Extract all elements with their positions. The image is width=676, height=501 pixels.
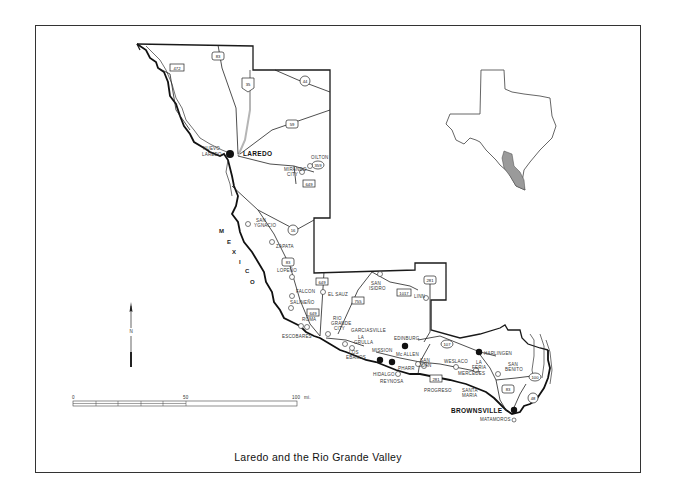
north-letter: N bbox=[130, 329, 133, 334]
highway-shield-44: 44 bbox=[300, 76, 310, 86]
highway-shield-649-b: 649 bbox=[307, 309, 319, 316]
svg-text:SALINEÑO: SALINEÑO bbox=[290, 299, 315, 305]
texas-inset-map bbox=[446, 70, 556, 190]
svg-text:O: O bbox=[250, 279, 255, 285]
highway-shield-649-north: 649 bbox=[303, 180, 315, 187]
svg-text:HARLINGEN: HARLINGEN bbox=[484, 351, 512, 356]
svg-text:35: 35 bbox=[246, 82, 251, 87]
svg-text:281: 281 bbox=[427, 278, 435, 283]
svg-text:1017: 1017 bbox=[399, 291, 409, 296]
svg-text:GRULLA: GRULLA bbox=[354, 340, 373, 345]
highway-shield-107: 107 bbox=[441, 340, 453, 348]
map-canvas: 83 35 472 44 59 359 649 16 83 649 649 75… bbox=[0, 0, 676, 501]
highway-shield-100: 100 bbox=[529, 373, 541, 381]
svg-text:PROGRESO: PROGRESO bbox=[424, 388, 452, 393]
svg-text:100: 100 bbox=[292, 395, 300, 400]
map-caption: Laredo and the Rio Grande Valley bbox=[0, 451, 676, 463]
svg-text:359: 359 bbox=[315, 163, 323, 168]
country-label-mexico: M E X I C O bbox=[219, 228, 255, 285]
svg-text:MARIA: MARIA bbox=[462, 393, 477, 398]
svg-text:HIDALGO: HIDALGO bbox=[373, 372, 395, 377]
svg-text:BENITO: BENITO bbox=[505, 367, 523, 372]
roads bbox=[158, 45, 532, 412]
svg-text:YGNACIO: YGNACIO bbox=[254, 223, 276, 228]
svg-text:EDINBURG: EDINBURG bbox=[394, 336, 420, 341]
scale-bar: 0 50 100 mi. bbox=[72, 395, 311, 406]
highway-shield-281-south: 281 bbox=[430, 375, 442, 382]
svg-text:LOPEÑO: LOPEÑO bbox=[277, 267, 297, 273]
svg-text:ROMA: ROMA bbox=[302, 317, 316, 322]
highway-shield-83-south: 83 bbox=[502, 385, 514, 393]
svg-text:REYNOSA: REYNOSA bbox=[380, 379, 403, 384]
interstate-shield-35: 35 bbox=[242, 78, 254, 92]
svg-text:281: 281 bbox=[433, 377, 441, 382]
svg-text:649: 649 bbox=[306, 182, 314, 187]
svg-text:JUAN: JUAN bbox=[419, 363, 432, 368]
svg-text:FERIA: FERIA bbox=[472, 365, 486, 370]
north-arrow: N bbox=[130, 302, 133, 367]
svg-text:FALCON: FALCON bbox=[296, 289, 315, 294]
svg-text:E: E bbox=[227, 239, 231, 245]
svg-text:48: 48 bbox=[531, 396, 536, 401]
svg-text:GARCIASVILLE: GARCIASVILLE bbox=[351, 328, 386, 333]
svg-text:ZAPATA: ZAPATA bbox=[276, 244, 294, 249]
highway-shield-649-a: 649 bbox=[316, 278, 328, 285]
svg-text:EBANOS: EBANOS bbox=[346, 355, 366, 360]
highway-shield-59: 59 bbox=[286, 120, 298, 128]
svg-text:83: 83 bbox=[286, 260, 291, 265]
svg-text:X: X bbox=[232, 249, 236, 255]
svg-text:LAREDO: LAREDO bbox=[202, 152, 222, 157]
highway-shield-83-north: 83 bbox=[212, 52, 224, 60]
highway-shield-16: 16 bbox=[288, 225, 298, 235]
svg-text:I: I bbox=[239, 259, 241, 265]
svg-text:C: C bbox=[245, 268, 250, 274]
svg-text:mi.: mi. bbox=[304, 395, 311, 400]
svg-text:ISIDRO: ISIDRO bbox=[369, 286, 386, 291]
svg-text:OILTON: OILTON bbox=[311, 155, 329, 160]
svg-text:NUEVO: NUEVO bbox=[203, 146, 220, 151]
svg-text:59: 59 bbox=[290, 122, 295, 127]
svg-text:LINN: LINN bbox=[414, 294, 425, 299]
highway-shield-281: 281 bbox=[424, 276, 436, 284]
svg-text:649: 649 bbox=[310, 311, 318, 316]
svg-text:649: 649 bbox=[319, 280, 327, 285]
svg-text:100: 100 bbox=[532, 375, 540, 380]
svg-text:PHARR: PHARR bbox=[398, 366, 415, 371]
svg-text:MATAMOROS: MATAMOROS bbox=[480, 417, 511, 422]
caption-text: Laredo and the Rio Grande Valley bbox=[234, 451, 402, 463]
svg-text:MISSION: MISSION bbox=[372, 348, 392, 353]
highway-shield-1017: 1017 bbox=[397, 289, 411, 296]
svg-text:EL SAUZ: EL SAUZ bbox=[328, 292, 348, 297]
label-laredo: LAREDO bbox=[243, 150, 272, 157]
highway-shield-359: 359 bbox=[312, 161, 324, 169]
highway-shield-755: 755 bbox=[352, 297, 364, 304]
svg-text:ESCOBARES: ESCOBARES bbox=[282, 334, 312, 339]
highway-shield-472: 472 bbox=[170, 64, 184, 71]
svg-text:50: 50 bbox=[183, 395, 189, 400]
svg-text:M: M bbox=[219, 228, 224, 234]
svg-text:MERCEDES: MERCEDES bbox=[458, 371, 485, 376]
highway-shield-83-zapata: 83 bbox=[282, 258, 294, 266]
svg-text:44: 44 bbox=[303, 79, 308, 84]
svg-text:755: 755 bbox=[355, 299, 363, 304]
svg-text:CITY: CITY bbox=[287, 172, 298, 177]
svg-text:16: 16 bbox=[291, 228, 296, 233]
svg-text:83: 83 bbox=[506, 387, 511, 392]
highway-shield-48: 48 bbox=[528, 393, 538, 403]
svg-text:0: 0 bbox=[72, 395, 75, 400]
svg-text:472: 472 bbox=[174, 66, 182, 71]
svg-text:CITY: CITY bbox=[334, 326, 345, 331]
svg-text:Mc ALLEN: Mc ALLEN bbox=[396, 352, 419, 357]
svg-text:107: 107 bbox=[444, 342, 452, 347]
svg-text:83: 83 bbox=[216, 54, 221, 59]
label-brownsville: BROWNSVILLE bbox=[451, 407, 503, 414]
svg-text:WESLACO: WESLACO bbox=[444, 359, 468, 364]
